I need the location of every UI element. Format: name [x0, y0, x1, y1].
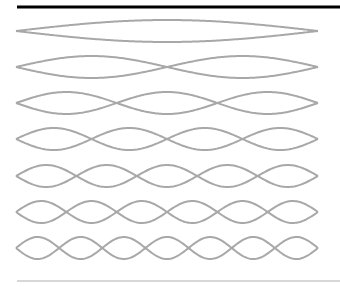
harmonic-1-wave-upper — [16, 20, 318, 31]
harmonic-waves — [16, 20, 318, 259]
standing-waves-diagram — [0, 0, 340, 287]
harmonic-6-wave-lower — [16, 201, 318, 223]
harmonic-4-wave-lower — [16, 128, 318, 150]
harmonic-2-wave-lower — [16, 56, 318, 78]
harmonic-3-wave-lower — [16, 92, 318, 114]
harmonic-3-wave-upper — [16, 92, 318, 114]
harmonic-1-wave-lower — [16, 31, 318, 42]
harmonic-7-wave-lower — [16, 237, 318, 259]
harmonic-7-wave-upper — [16, 237, 318, 259]
